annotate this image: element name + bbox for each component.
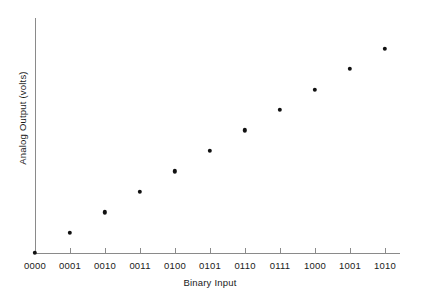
x-axis-tick-label: 0101 [199, 260, 221, 271]
data-point [348, 67, 352, 71]
x-axis-tick [315, 248, 316, 253]
x-axis-tick [385, 248, 386, 253]
data-point [243, 128, 247, 132]
data-point [208, 149, 212, 153]
data-point [138, 189, 142, 193]
x-axis-tick-label: 0011 [129, 260, 150, 271]
x-axis-tick-label: 1001 [339, 260, 361, 271]
data-point [173, 169, 177, 173]
x-axis-tick [245, 248, 246, 253]
x-axis-tick-label: 0000 [24, 260, 46, 271]
x-axis-tick [105, 248, 106, 253]
data-point [383, 46, 387, 50]
x-axis-tick-label: 1000 [304, 260, 326, 271]
data-point [33, 251, 37, 255]
y-axis-line [35, 18, 36, 253]
x-axis-tick-label: 0111 [270, 260, 291, 271]
data-point [68, 230, 72, 234]
y-axis-title: Analog Output (volts) [17, 71, 28, 164]
x-axis-tick [350, 248, 351, 253]
chart-container: 0000000100100011010001010110011110001001… [0, 0, 422, 299]
x-axis-tick-label: 1010 [374, 260, 396, 271]
x-axis-tick-label: 0100 [164, 260, 186, 271]
x-axis-tick-label: 0110 [234, 260, 255, 271]
x-axis-tick-label: 0001 [59, 260, 81, 271]
x-axis-tick [70, 248, 71, 253]
x-axis-tick [175, 248, 176, 253]
x-axis-tick [140, 248, 141, 253]
x-axis-line [35, 253, 400, 254]
x-axis-tick [280, 248, 281, 253]
data-point [313, 87, 317, 91]
x-axis-title: Binary Input [183, 277, 236, 288]
x-axis-tick-label: 0010 [94, 260, 116, 271]
data-point [103, 210, 107, 214]
data-point [278, 108, 282, 112]
x-axis-tick [210, 248, 211, 253]
